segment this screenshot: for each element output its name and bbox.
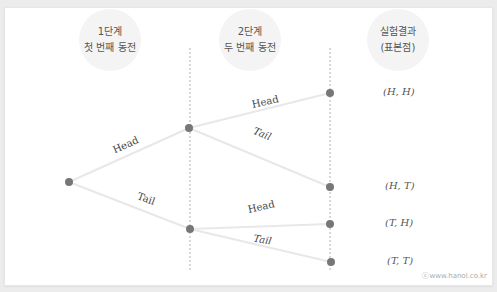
branch-label-tail-2-upper: Tail <box>252 125 273 142</box>
outcome-ht: (H, T) <box>385 180 415 191</box>
edge-root-head <box>69 128 189 182</box>
branch-label-head-2-lower: Head <box>247 198 276 215</box>
tree-diagram: Head Tail Head Tail Head Tail <box>0 0 497 292</box>
edge-root-tail <box>69 182 190 229</box>
node-h <box>185 124 193 132</box>
outcome-hh: (H, H) <box>383 86 415 97</box>
branch-label-tail-1: Tail <box>136 190 157 207</box>
outcome-th: (T, H) <box>385 217 413 228</box>
node-tt <box>327 258 335 266</box>
watermark: ⓒwww.hanol.co.kr <box>422 270 487 280</box>
node-t <box>186 225 194 233</box>
node-ht <box>326 183 334 191</box>
node-root <box>65 178 73 186</box>
node-th <box>326 220 334 228</box>
edge-th <box>190 224 330 229</box>
node-hh <box>326 89 334 97</box>
outcome-tt: (T, T) <box>387 255 413 266</box>
